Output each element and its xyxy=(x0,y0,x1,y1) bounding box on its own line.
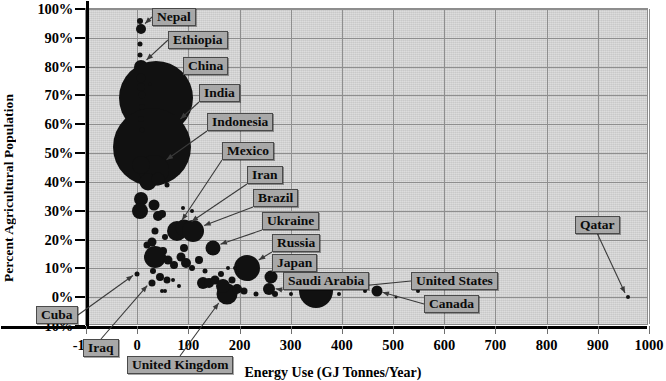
y-axis-tick xyxy=(75,210,85,212)
bubble xyxy=(416,289,420,293)
country-label-india[interactable]: India xyxy=(199,84,240,102)
bubble xyxy=(162,234,168,240)
bubble xyxy=(337,292,341,296)
bubble xyxy=(163,289,167,293)
x-axis-tick xyxy=(342,326,343,334)
y-axis-tick-label: 40% xyxy=(45,173,73,190)
x-axis-tick-label: 800 xyxy=(536,337,558,354)
bubble xyxy=(138,92,145,99)
country-label-ukraine[interactable]: Ukraine xyxy=(262,212,319,230)
x-axis-tick-label: 100 xyxy=(177,337,199,354)
bubble xyxy=(152,227,159,234)
bubble-ukraine xyxy=(205,241,220,256)
x-axis-tick xyxy=(86,326,87,334)
gridline-vertical xyxy=(649,9,650,324)
x-axis-tick xyxy=(240,326,241,334)
country-label-canada[interactable]: Canada xyxy=(424,295,479,313)
bubble xyxy=(158,210,166,218)
bubble-russia xyxy=(234,255,260,281)
bubble xyxy=(253,292,258,297)
x-axis-title-text: Energy Use (GJ Tonnes/Year) xyxy=(245,365,422,380)
bubble xyxy=(140,128,145,133)
y-axis-tick xyxy=(75,267,85,269)
bubble xyxy=(149,82,152,85)
gridline-vertical xyxy=(598,9,599,324)
y-axis-tick-label: 20% xyxy=(45,231,73,248)
country-label-united-states[interactable]: United States xyxy=(411,272,498,290)
bubble-brazil xyxy=(182,220,204,242)
bubble xyxy=(181,206,185,210)
country-label-china[interactable]: China xyxy=(183,57,228,75)
bubble xyxy=(137,83,145,91)
country-label-qatar[interactable]: Qatar xyxy=(575,216,620,234)
y-axis-tick-label: 90% xyxy=(45,29,73,46)
x-axis-tick-label: 700 xyxy=(485,337,507,354)
y-axis-line xyxy=(86,1,89,326)
y-axis-tick xyxy=(75,239,85,241)
bubble xyxy=(171,278,175,282)
y-axis-tick xyxy=(75,37,85,39)
country-label-iran[interactable]: Iran xyxy=(247,166,283,184)
bubble xyxy=(395,296,398,299)
country-label-nepal[interactable]: Nepal xyxy=(152,8,196,26)
gridline-horizontal xyxy=(86,211,647,212)
gridline-horizontal xyxy=(86,268,647,269)
y-axis-tick xyxy=(75,94,85,96)
bubble-nepal xyxy=(136,24,146,34)
bubble xyxy=(136,74,145,83)
x-axis-tick xyxy=(547,326,548,334)
y-axis-tick xyxy=(75,181,85,183)
y-axis-tick-label: 70% xyxy=(45,87,73,104)
bubble xyxy=(189,265,195,271)
bubble xyxy=(229,276,236,283)
country-label-indonesia[interactable]: Indonesia xyxy=(207,113,273,131)
bubble xyxy=(180,244,188,252)
bubble xyxy=(272,291,278,297)
bubble xyxy=(148,199,159,210)
bubble-japan xyxy=(265,271,278,284)
bubble xyxy=(226,266,230,270)
country-label-ethiopia[interactable]: Ethiopia xyxy=(168,31,228,49)
x-axis-tick xyxy=(291,326,292,334)
x-axis-tick xyxy=(188,326,189,334)
y-axis-tick xyxy=(75,123,85,125)
bubble xyxy=(137,41,142,46)
x-axis-tick xyxy=(393,326,394,334)
country-label-cuba[interactable]: Cuba xyxy=(36,306,78,324)
country-label-russia[interactable]: Russia xyxy=(272,234,320,252)
bubble xyxy=(163,276,170,283)
x-axis-tick-label: 0 xyxy=(134,337,141,354)
bubble xyxy=(164,182,169,187)
bubble-qatar xyxy=(626,295,630,299)
bubble xyxy=(363,289,367,293)
country-label-iraq[interactable]: Iraq xyxy=(83,339,119,357)
bubble xyxy=(132,203,148,219)
x-axis-tick-label: 200 xyxy=(229,337,251,354)
y-axis-tick-label: 60% xyxy=(45,116,73,133)
bubble-cuba xyxy=(135,272,140,277)
gridline-vertical xyxy=(393,9,394,324)
gridline-horizontal xyxy=(86,240,647,241)
bubble xyxy=(233,266,237,270)
bubble-canada xyxy=(371,286,382,297)
bubble xyxy=(139,104,145,110)
x-axis-tick-label: 600 xyxy=(433,337,455,354)
bubble xyxy=(137,18,143,24)
y-axis-tick-label: 50% xyxy=(45,145,73,162)
x-axis-tick xyxy=(495,326,496,334)
country-label-saudi-arabia[interactable]: Saudi Arabia xyxy=(283,272,369,290)
country-label-japan[interactable]: Japan xyxy=(272,254,317,272)
y-axis-tick-label: 80% xyxy=(45,58,73,75)
bubble xyxy=(170,261,178,269)
y-axis-tick xyxy=(75,66,85,68)
country-label-brazil[interactable]: Brazil xyxy=(253,189,298,207)
gridline-vertical xyxy=(547,9,548,324)
country-label-mexico[interactable]: Mexico xyxy=(222,142,274,160)
x-axis-tick xyxy=(649,326,650,334)
bubble xyxy=(218,271,224,277)
x-axis-tick xyxy=(137,326,138,334)
y-axis-tick-label: 10% xyxy=(45,260,73,277)
y-axis-tick xyxy=(75,152,85,154)
bubble xyxy=(150,268,156,274)
x-axis-tick-label: 400 xyxy=(331,337,353,354)
